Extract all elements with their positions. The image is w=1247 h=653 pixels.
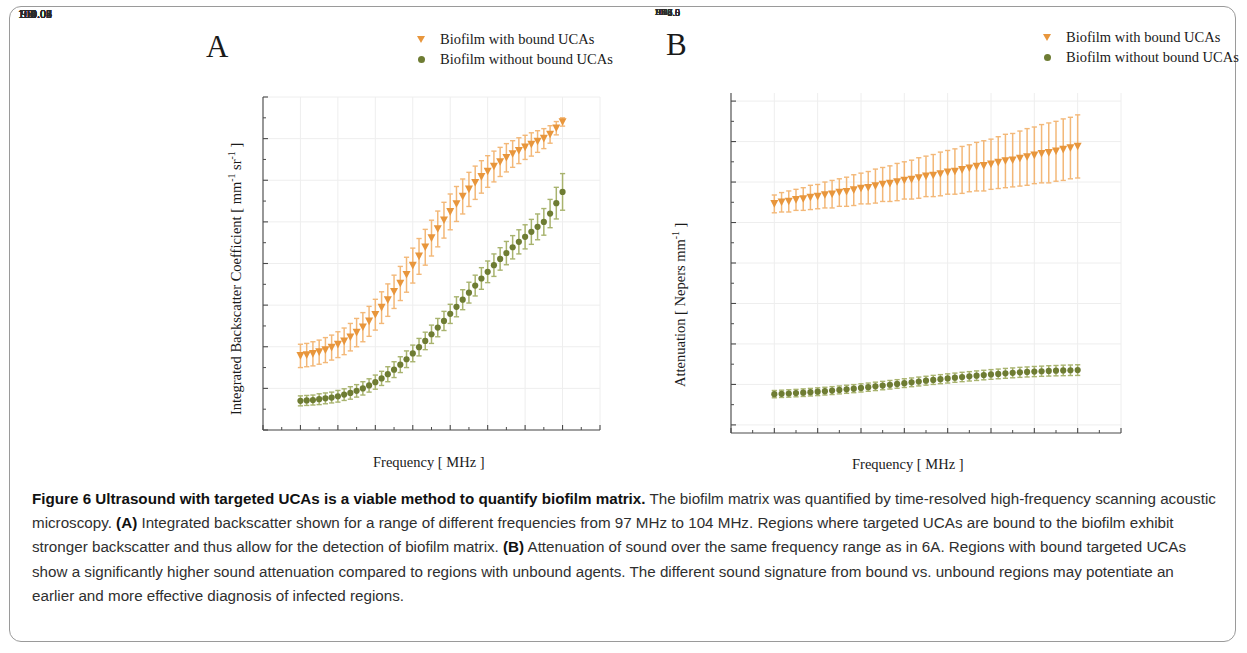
panel-b-letter: B <box>666 27 687 63</box>
panel-b-y-axis-title: Attenuation [ Nepers mm-1 ] <box>670 223 689 387</box>
panel-a-legend: Biofilm with bound UCAs Biofilm without … <box>410 29 613 69</box>
legend-label: Biofilm without bound UCAs <box>1058 49 1239 66</box>
caption-tag-a: (A) <box>116 514 137 531</box>
panel-a-plot <box>263 97 600 430</box>
triangle-down-icon <box>410 36 432 43</box>
legend-item-with-ucas: Biofilm with bound UCAs <box>410 29 613 49</box>
legend-label: Biofilm with bound UCAs <box>432 31 594 48</box>
circle-icon <box>410 56 432 63</box>
legend-label: Biofilm with bound UCAs <box>1058 29 1220 46</box>
panel-a: A Biofilm with bound UCAs Biofilm withou… <box>10 7 650 477</box>
legend-label: Biofilm without bound UCAs <box>432 51 613 68</box>
triangle-down-icon <box>1036 34 1058 41</box>
figure-caption: Figure 6 Ultrasound with targeted UCAs i… <box>32 487 1218 608</box>
circle-icon <box>1036 54 1058 61</box>
panel-b-legend: Biofilm with bound UCAs Biofilm without … <box>1036 27 1239 67</box>
legend-item-without-ucas: Biofilm without bound UCAs <box>1036 47 1239 67</box>
panel-a-x-axis-title: Frequency [ MHz ] <box>373 454 485 471</box>
legend-item-without-ucas: Biofilm without bound UCAs <box>410 49 613 69</box>
panel-b: B Biofilm with bound UCAs Biofilm withou… <box>646 7 1236 477</box>
caption-title: Ultrasound with targeted UCAs is a viabl… <box>95 490 645 507</box>
legend-item-with-ucas: Biofilm with bound UCAs <box>1036 27 1239 47</box>
panel-a-y-axis-title: Integrated Backscatter Coefficient [ mm-… <box>226 143 245 415</box>
panel-a-letter: A <box>206 29 228 65</box>
caption-label: Figure 6 <box>32 490 91 507</box>
caption-tag-b: (B) <box>503 538 524 555</box>
series-with-ucas <box>770 115 1081 213</box>
x-tick-label: 105 <box>646 7 676 17</box>
figure-card: A Biofilm with bound UCAs Biofilm withou… <box>9 6 1236 642</box>
panel-b-plot <box>731 93 1121 433</box>
x-tick-label: 105 <box>10 7 44 22</box>
panel-b-x-axis-title: Frequency [ MHz ] <box>852 456 964 473</box>
